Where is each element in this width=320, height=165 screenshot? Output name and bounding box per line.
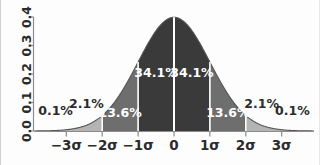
plot-area: 0.00.10.20.30.4−3σ−2σ−1σ01σ2σ3σ0.1%2.1%1… [0,0,320,165]
x-tick-label-2: −1σ [122,137,153,153]
annotation-core-right: 34.1% [170,65,214,80]
figure-left-edge [0,0,1,165]
y-tick-label-3: 0.3 [19,34,34,56]
annotation-tail-right: 0.1% [275,103,310,118]
y-tick-label-4: 0.4 [19,6,34,28]
y-tick-label-2: 0.2 [19,63,34,85]
y-tick-label-1: 0.1 [19,91,34,113]
x-tick-label-5: 2σ [236,137,256,153]
x-tick-label-4: 1σ [200,137,220,153]
x-tick-label-6: 3σ [272,137,292,153]
y-tick-label-0: 0.0 [19,120,34,142]
x-tick-label-3: 0 [169,137,178,153]
annotation-tail-left: 0.1% [38,103,73,118]
x-tick-label-0: −3σ [51,137,82,153]
annotation-band-left-1: 13.6% [98,105,142,120]
normal-distribution-figure: 0.00.10.20.30.4−3σ−2σ−1σ01σ2σ3σ0.1%2.1%1… [0,0,320,165]
x-tick-label-1: −2σ [87,137,118,153]
